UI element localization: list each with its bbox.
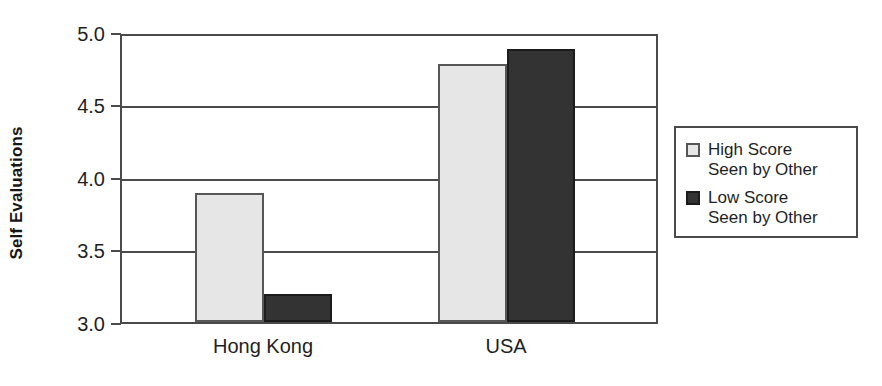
x-tick-label-usa: USA — [406, 334, 606, 358]
y-tick-label-3-0: 3.0 — [35, 314, 105, 334]
bar-usa-low-score — [507, 49, 575, 322]
gridline-4-5 — [122, 106, 656, 108]
legend-entry-high-score: High Score Seen by Other — [686, 140, 856, 180]
y-tick-label-3-5: 3.5 — [35, 241, 105, 261]
legend-label-high-score: High Score Seen by Other — [708, 140, 818, 180]
light-gray-swatch-icon — [686, 143, 700, 157]
gridline-4-0 — [122, 179, 656, 181]
y-axis-title: Self Evaluations — [0, 0, 34, 386]
chart-legend: High Score Seen by Other Low Score Seen … — [674, 126, 858, 238]
y-tick-label-5-0: 5.0 — [35, 24, 105, 44]
plot-area — [120, 34, 658, 324]
legend-label-low-score: Low Score Seen by Other — [708, 188, 818, 228]
legend-entry-low-score: Low Score Seen by Other — [686, 188, 856, 228]
dark-gray-swatch-icon — [686, 191, 700, 205]
bar-hong-kong-low-score — [264, 294, 332, 322]
bar-usa-high-score — [438, 64, 507, 322]
y-tick-label-4-5: 4.5 — [35, 96, 105, 116]
y-tick-label-4-0: 4.0 — [35, 169, 105, 189]
bar-hong-kong-high-score — [195, 193, 264, 322]
bar-chart-figure: Self Evaluations 5.0 4.5 4.0 3.5 3.0 Hon… — [0, 0, 882, 386]
x-tick-label-hong-kong: Hong Kong — [163, 334, 363, 358]
